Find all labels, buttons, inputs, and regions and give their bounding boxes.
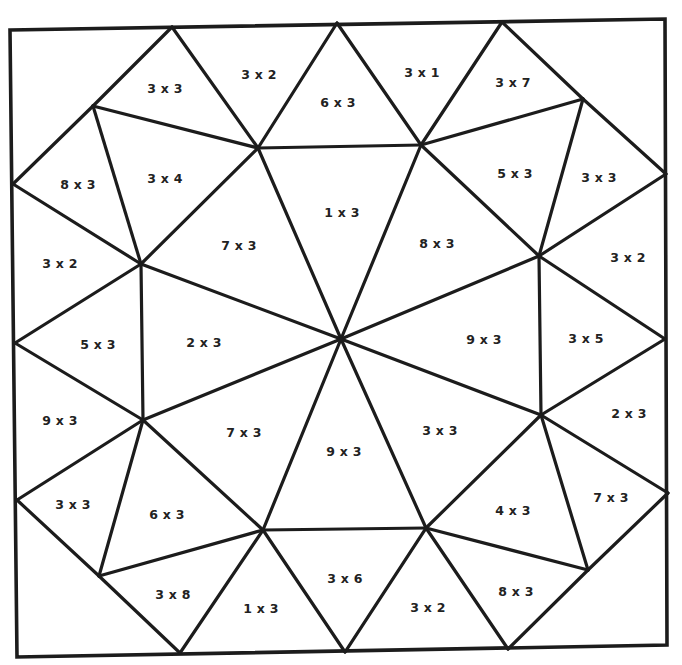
edge-F-H [539, 256, 541, 415]
mosaic-puzzle [0, 0, 682, 665]
edge-J-K [263, 528, 426, 530]
edge-E-G [141, 264, 143, 420]
